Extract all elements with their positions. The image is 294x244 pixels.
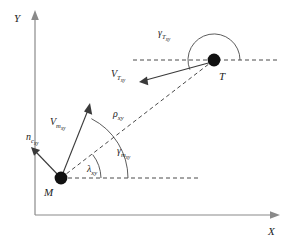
axis-group bbox=[31, 10, 280, 219]
svg-text:ρxy: ρxy bbox=[112, 108, 124, 121]
lambda-angle-label: λxy bbox=[86, 163, 97, 176]
target-velocity-shaft bbox=[146, 62, 212, 80]
svg-text:γTxy: γTxy bbox=[158, 27, 171, 42]
svg-text:γmxy: γmxy bbox=[117, 145, 131, 160]
gamma-m-sub2: xy bbox=[125, 154, 131, 160]
svg-text:Vmxy: Vmxy bbox=[50, 116, 66, 131]
missile-velocity-arrowhead bbox=[84, 103, 92, 115]
target-velocity-arrowhead bbox=[139, 76, 148, 85]
target-point-marker bbox=[208, 54, 221, 67]
gamma-t-sub2: xy bbox=[165, 36, 171, 42]
svg-text:ncxy: ncxy bbox=[26, 131, 39, 146]
missile-point-label: M bbox=[43, 186, 54, 198]
gamma-m-angle-label: γmxy bbox=[117, 145, 131, 160]
line-of-sight-label: ρxy bbox=[112, 108, 124, 121]
figure-canvas: Y X M bbox=[0, 0, 294, 244]
commanded-acceleration-label: ncxy bbox=[26, 131, 39, 146]
missile-velocity-label: Vmxy bbox=[50, 116, 66, 131]
svg-text:VTxy: VTxy bbox=[111, 68, 126, 83]
y-axis-label: Y bbox=[14, 12, 22, 24]
rho-sub: xy bbox=[117, 114, 124, 121]
y-axis-arrowhead bbox=[31, 10, 39, 20]
commanded-acceleration-sub2: xy bbox=[33, 140, 39, 146]
target-velocity-label: VTxy bbox=[111, 68, 126, 83]
lambda-sub: xy bbox=[90, 169, 97, 176]
target-velocity-sub2: xy bbox=[120, 77, 126, 83]
svg-text:λxy: λxy bbox=[86, 163, 97, 176]
target-velocity-vector bbox=[139, 62, 212, 85]
target-point-label: T bbox=[219, 70, 226, 82]
gamma-t-angle-label: γTxy bbox=[158, 27, 171, 42]
missile-velocity-sub2: xy bbox=[60, 125, 66, 131]
x-axis-label: X bbox=[267, 225, 276, 237]
engagement-geometry-figure: Y X M bbox=[0, 0, 294, 244]
x-axis-arrowhead bbox=[270, 211, 280, 219]
missile-point-marker bbox=[55, 172, 68, 185]
